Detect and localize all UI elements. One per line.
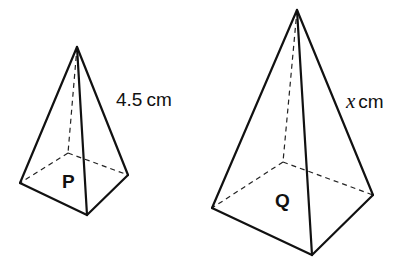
pyramid-p-label: P [62,172,75,191]
pyramid-p-edge-apex-right [77,47,128,175]
pyramid-q-edge-apex-front [297,10,312,255]
pyramid-p-slant-edge-label: 4.5cm [116,90,172,109]
pyramid-q [212,10,373,255]
pyramid-q-slant-edge-variable: x [346,89,355,113]
pyramid-p-edge-left-front [20,183,87,215]
pyramid-p-hidden-edge-back-right [68,153,128,175]
pyramid-p-edge-apex-left [20,47,77,183]
pyramid-q-edge-front-right [312,195,373,255]
pyramids-figure [0,0,408,269]
pyramid-q-hidden-edge-apex-back [283,10,297,162]
pyramid-q-edge-left-front [212,208,312,255]
pyramid-p-edge-apex-front [77,47,87,215]
pyramid-p-edge-front-right [87,175,128,215]
pyramid-q-edge-apex-left [212,10,297,208]
pyramid-q-slant-edge-unit: cm [358,91,383,112]
pyramid-q-slant-edge-label: xcm [346,91,384,112]
pyramid-p-slant-edge-value: 4.5 [116,89,142,110]
diagram-canvas: P Q 4.5cm xcm [0,0,408,269]
pyramid-q-hidden-edge-back-right [283,162,373,195]
pyramid-q-label: Q [275,191,290,210]
pyramid-p-slant-edge-unit: cm [146,89,171,110]
